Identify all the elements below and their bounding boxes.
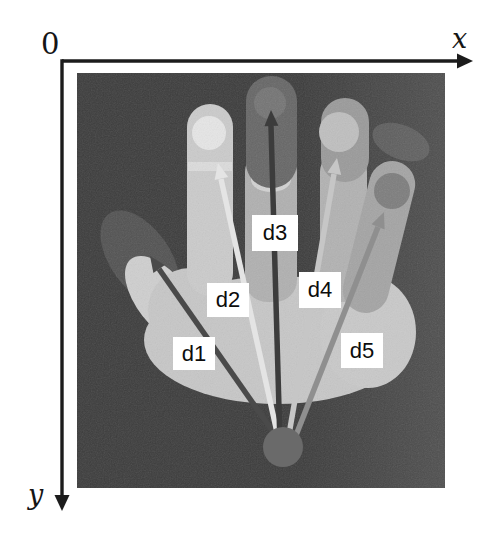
y-axis-label: y (28, 481, 43, 508)
distance-label-d1: d1 (173, 337, 215, 370)
distance-label-d4: d4 (299, 272, 341, 308)
wrist-origin-marker (263, 427, 303, 467)
distance-label-d3: d3 (252, 215, 298, 251)
distance-label-d2: d2 (207, 283, 249, 317)
x-axis-label: x (452, 25, 467, 52)
hand-distance-figure: 0 x y d1 d2 d3 d4 d5 (0, 0, 496, 541)
distance-label-d5: d5 (341, 333, 383, 368)
hand-photo (77, 73, 445, 488)
x-axis-arrowhead (457, 54, 473, 69)
origin-label: 0 (41, 30, 59, 59)
figure-drawing (0, 0, 496, 541)
y-axis-arrowhead (55, 495, 70, 511)
